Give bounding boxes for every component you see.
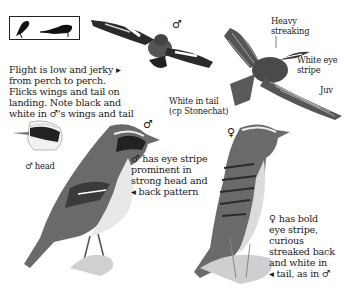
label-heavy-streaking: Heavy streaking (271, 17, 309, 36)
label-white-eye-stripe: White eye stripe (297, 56, 338, 75)
male-perched-illustration (10, 118, 170, 278)
male-perched-symbol: ♂ (143, 119, 153, 130)
tail-note: White in tail (cp Stonechat) (169, 97, 228, 116)
silhouette-box (9, 16, 80, 40)
female-perched-symbol: ♀ (227, 127, 235, 138)
female-note: ♀ has bold eye stripe, curious streaked … (269, 213, 335, 279)
perched-bird-silhouettes-icon (10, 17, 79, 39)
label-juv: Juv (320, 86, 333, 96)
male-flight-symbol: ♂ (172, 19, 182, 30)
flight-note: Flight is low and jerky ▸ from perch to … (9, 64, 134, 119)
